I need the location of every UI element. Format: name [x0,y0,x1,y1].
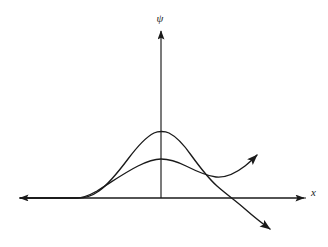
shallow-curve-path [20,155,257,198]
shallow-curve [20,155,257,198]
psi-axis-label: ψ [157,12,164,24]
tall-peak-curve [20,132,270,230]
x-axis-label: x [310,186,316,198]
figure-canvas: ψ x [0,0,328,247]
tall-peak-curve-path [20,132,270,230]
wavefunction-figure: ψ x [0,0,328,247]
